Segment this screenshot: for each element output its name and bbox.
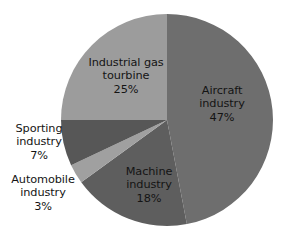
slice-label-machine-industry: Machine industry 18%: [112, 165, 186, 205]
slice-label-value: 25%: [74, 83, 178, 96]
slice-label-value: 47%: [186, 111, 258, 124]
slice-label-value: 3%: [0, 200, 86, 213]
slice-label-line2: tourbine: [74, 69, 178, 82]
slice-label-line1: Automobile: [0, 173, 86, 186]
slice-label-line2: industry: [186, 97, 258, 110]
slice-label-line2: industry: [2, 135, 76, 148]
slice-label-line1: Aircraft: [186, 84, 258, 97]
slice-label-line1: Machine: [112, 165, 186, 178]
slice-label-value: 18%: [112, 192, 186, 205]
slice-label-aircraft-industry: Aircraft industry 47%: [186, 84, 258, 124]
slice-label-line2: industry: [0, 186, 86, 199]
slice-label-industrial-gas-tourbine: Industrial gas tourbine 25%: [74, 56, 178, 96]
slice-label-sporting-industry: Sporting industry 7%: [2, 122, 76, 162]
slice-label-value: 7%: [2, 149, 76, 162]
slice-label-automobile-industry: Automobile industry 3%: [0, 173, 86, 213]
slice-label-line2: industry: [112, 178, 186, 191]
pie-chart-figure: Industrial gas tourbine 25% Aircraft ind…: [0, 0, 284, 238]
slice-label-line1: Industrial gas: [74, 56, 178, 69]
slice-label-line1: Sporting: [2, 122, 76, 135]
